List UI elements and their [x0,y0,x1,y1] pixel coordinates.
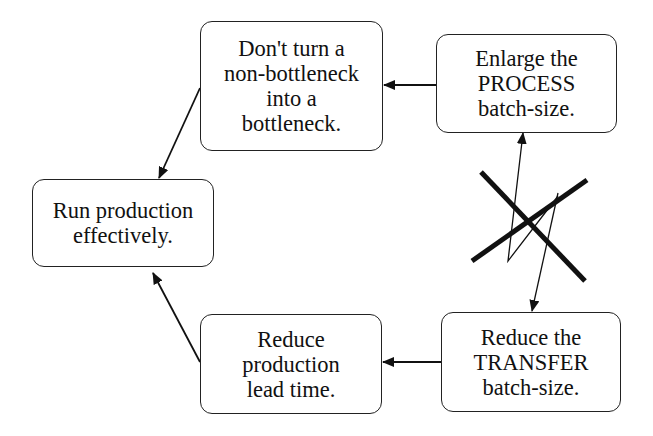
node-reduce-transfer-batch: Reduce the TRANSFER batch-size. [441,312,621,412]
arrow-lead-time-to-run-production [153,273,200,362]
node-text-line: bottleneck. [242,111,341,136]
node-text-line: production [242,352,339,377]
node-text-line: Reduce the [481,325,582,350]
node-text-line: lead time. [247,377,336,402]
node-text-line: Enlarge the [475,46,578,71]
node-text-line: non-bottleneck [224,61,359,86]
node-text-line: Reduce [257,327,324,352]
node-text-line: batch-size. [483,375,580,400]
node-text-line: Don't turn a [238,36,345,61]
node-text-line: PROCESS [478,71,576,96]
node-run-production: Run production effectively. [32,179,214,267]
node-reduce-lead-time: Reduce production lead time. [200,314,382,414]
cross-mark-stroke-2 [472,180,587,261]
node-text-line: Run production [53,198,194,223]
node-text-line: batch-size. [478,96,575,121]
arrow-dont-turn-to-run-production [159,88,200,178]
node-text-line: TRANSFER [473,350,588,375]
node-dont-turn-non-bottleneck: Don't turn a non-bottleneck into a bottl… [200,21,383,151]
node-text-line: effectively. [73,223,173,248]
cross-mark-stroke-1 [481,172,585,281]
node-enlarge-process-batch: Enlarge the PROCESS batch-size. [436,34,617,133]
node-text-line: into a [266,86,317,111]
